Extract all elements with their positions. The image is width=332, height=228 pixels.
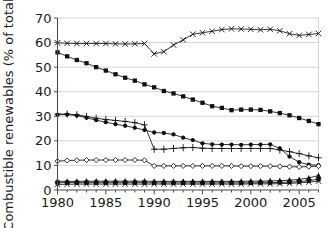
data-point-marker — [200, 163, 205, 168]
y-tick-label: 70 — [35, 11, 52, 26]
data-point-marker — [268, 109, 272, 113]
data-point-marker — [297, 160, 301, 164]
data-point-marker — [258, 142, 262, 146]
data-point-marker — [123, 124, 127, 128]
gridlines-group — [58, 18, 319, 165]
data-point-marker — [315, 154, 321, 161]
data-point-marker — [94, 180, 98, 184]
data-point-marker — [132, 119, 138, 126]
x-tick-label: 2005 — [283, 195, 316, 210]
data-point-marker — [297, 179, 301, 183]
y-tick-label: 40 — [35, 84, 52, 99]
data-point-marker — [75, 180, 79, 184]
data-point-marker — [132, 157, 137, 162]
data-point-marker — [65, 54, 69, 58]
data-point-marker — [249, 142, 253, 146]
data-point-marker — [84, 157, 89, 162]
data-point-marker — [258, 180, 262, 184]
data-point-marker — [65, 180, 69, 184]
data-point-marker — [297, 116, 301, 120]
y-axis-tick-labels: 010203040506070 — [35, 11, 52, 198]
data-point-marker — [287, 154, 291, 158]
data-point-marker — [277, 164, 282, 169]
data-point-marker — [258, 164, 263, 169]
data-point-marker — [278, 146, 282, 150]
chart-figure: 010203040506070 198019851990199520002005… — [0, 0, 332, 228]
series-series-open-diamond — [55, 157, 321, 169]
data-point-marker — [152, 181, 156, 185]
data-point-marker — [278, 180, 282, 184]
data-point-marker — [151, 51, 157, 57]
data-point-marker — [219, 163, 224, 168]
data-point-marker — [307, 179, 311, 183]
chart-canvas: 010203040506070 198019851990199520002005… — [0, 0, 332, 228]
data-point-marker — [104, 68, 108, 72]
data-point-marker — [278, 111, 282, 115]
data-point-marker — [239, 164, 244, 169]
series-line — [58, 29, 319, 54]
data-point-marker — [142, 180, 146, 184]
y-tick-label: 60 — [35, 35, 52, 50]
y-tick-label: 50 — [35, 60, 52, 75]
data-point-marker — [210, 142, 214, 146]
data-point-marker — [74, 158, 79, 163]
data-point-marker — [287, 164, 292, 169]
data-point-marker — [307, 119, 311, 123]
data-point-marker — [220, 181, 224, 185]
data-point-marker — [161, 146, 167, 153]
data-point-marker — [123, 76, 127, 80]
data-point-marker — [113, 180, 117, 184]
data-point-marker — [249, 108, 253, 112]
data-point-marker — [75, 58, 79, 62]
data-point-marker — [133, 126, 137, 130]
data-point-marker — [162, 131, 166, 135]
data-point-marker — [104, 180, 108, 184]
data-point-marker — [142, 158, 147, 163]
y-tick-label: 10 — [35, 158, 52, 173]
data-point-marker — [268, 142, 272, 146]
data-point-marker — [296, 150, 302, 157]
data-point-marker — [180, 144, 186, 151]
data-point-marker — [142, 128, 146, 132]
x-axis-ticks — [58, 190, 319, 195]
x-tick-label: 1985 — [89, 195, 122, 210]
data-point-marker — [113, 157, 118, 162]
data-point-marker — [133, 79, 137, 83]
data-point-marker — [152, 85, 156, 89]
data-point-marker — [123, 157, 128, 162]
series-series-plus — [54, 111, 321, 162]
data-point-marker — [181, 94, 185, 98]
y-axis-title: Combustible renewables (% of total) — [1, 0, 16, 228]
data-point-marker — [191, 138, 195, 142]
data-point-marker — [200, 101, 204, 105]
data-point-marker — [133, 180, 137, 184]
data-point-marker — [94, 118, 98, 122]
data-point-marker — [162, 89, 166, 93]
data-point-marker — [151, 146, 157, 153]
data-point-marker — [94, 157, 99, 162]
data-point-marker — [181, 163, 186, 168]
x-tick-label: 2000 — [234, 195, 267, 210]
data-point-marker — [142, 82, 146, 86]
data-point-marker — [229, 142, 233, 146]
data-point-marker — [248, 164, 253, 169]
data-point-marker — [94, 65, 98, 69]
data-point-marker — [75, 113, 79, 117]
data-point-marker — [239, 181, 243, 185]
data-point-marker — [258, 108, 262, 112]
data-point-marker — [286, 148, 292, 155]
data-point-marker — [152, 163, 157, 168]
data-point-marker — [306, 152, 312, 159]
data-point-marker — [249, 181, 253, 185]
data-point-marker — [229, 181, 233, 185]
data-point-marker — [239, 108, 243, 112]
data-point-marker — [190, 163, 195, 168]
data-series-group — [54, 26, 321, 187]
data-point-marker — [123, 180, 127, 184]
data-point-marker — [287, 113, 291, 117]
data-point-marker — [268, 180, 272, 184]
data-point-marker — [161, 163, 166, 168]
x-axis-tick-labels: 198019851990199520002005 — [41, 195, 316, 210]
x-tick-label: 1995 — [186, 195, 219, 210]
data-point-marker — [84, 116, 88, 120]
